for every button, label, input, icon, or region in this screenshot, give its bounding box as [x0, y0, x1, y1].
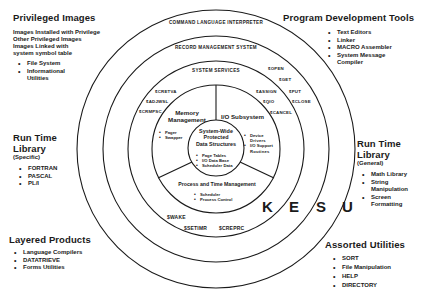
svc-creprc: $CREPRC	[219, 225, 244, 231]
pdt-bullet-compiler: Compiler	[337, 59, 414, 66]
svc-assign: $ASSIGN	[256, 89, 277, 94]
layered-products-block: Layered Products Language Compilers DATA…	[9, 234, 91, 272]
pdt-bullet-system-message: System Message	[327, 52, 414, 60]
lp-bullet-language-compilers: Language Compilers	[13, 249, 91, 257]
rtl-specific-subtitle: (Specific)	[13, 154, 57, 160]
privileged-images-title: Privileged Images	[13, 12, 100, 23]
au-bullet-sort: SORT	[332, 254, 405, 263]
privileged-line-1: Images Installed with Privilege	[13, 29, 100, 36]
privileged-bullet-file-system: File System	[17, 60, 100, 68]
svc-open: $OPEN	[268, 66, 284, 71]
mode-kernel: K	[262, 198, 273, 215]
rtl-general-subtitle: (General)	[357, 160, 408, 166]
mode-executive: E	[289, 198, 299, 215]
privileged-images-block: Privileged Images Images Installed with …	[13, 12, 100, 82]
svc-wake: $WAKE	[167, 214, 186, 220]
spoke-lower-left	[158, 162, 192, 178]
rtl-specific-title-1: Run Time	[13, 132, 57, 143]
privileged-line-4: system symbol table	[13, 50, 100, 57]
io-routines: Routines	[250, 149, 273, 154]
spoke-lower-right	[240, 162, 274, 178]
process-bullets: Scheduler Process Control	[194, 192, 232, 202]
core-data-structures: System-Wide Protected Data Structures	[188, 128, 244, 147]
lp-bullet-forms-utilities: Forms Utilities	[13, 264, 91, 272]
io-bullet-support: I/O Support	[244, 143, 273, 148]
svc-put: $PUT	[289, 89, 301, 94]
mode-supervisor: S	[316, 198, 326, 215]
mode-user: U	[342, 198, 353, 215]
svc-qio: $QIO	[263, 99, 274, 104]
program-dev-tools-title: Program Development Tools	[283, 12, 414, 23]
ring-label-cli: COMMAND LANGUAGE INTERPRETER	[166, 20, 266, 25]
layered-products-title: Layered Products	[9, 234, 91, 245]
memory-title-1: Memory	[163, 109, 211, 116]
rtl-specific-title-2: Library	[13, 143, 57, 154]
au-bullet-file-manipulation: File Manipulation	[332, 263, 405, 272]
memory-bullet-swapper: Swapper	[159, 135, 182, 140]
ring-label-rms: RECORD MANAGEMENT SYSTEM	[166, 45, 266, 50]
au-bullet-directory: DIRECTORY	[332, 281, 405, 290]
svc-crmpsc: $CRMPSC	[139, 109, 162, 114]
lp-bullet-datatrieve: DATATRIEVE	[13, 257, 91, 265]
pdt-bullet-linker: Linker	[327, 37, 414, 45]
svc-cretva: $CRETVA	[155, 89, 177, 94]
memory-bullets: Pager Swapper	[159, 130, 182, 140]
memory-management-section: Memory Management	[163, 109, 211, 123]
process-time-title: Process and Time Management	[171, 181, 263, 188]
svc-adjwsl: $ADJWSL	[146, 99, 168, 104]
svc-get: $GET	[279, 77, 291, 82]
assorted-utilities-block: Assorted Utilities SORT File Manipulatio…	[325, 239, 405, 290]
privileged-line-3: Images Linked with	[13, 43, 100, 50]
process-bullet-process-control: Process Control	[194, 197, 232, 202]
svc-close: $CLOSE	[292, 99, 311, 104]
au-bullet-help: HELP	[332, 272, 405, 281]
rtl-general-title-1: Run Time	[357, 138, 408, 149]
io-bullets: Device Drivers I/O Support Routines	[244, 133, 273, 154]
core-title-3: Data Structures	[188, 141, 244, 147]
rtl-general-bullet-string: String	[361, 179, 408, 187]
privileged-line-2: Other Privileged Images	[13, 36, 100, 43]
rtl-general-title-2: Library	[357, 149, 408, 160]
pdt-bullet-text-editors: Text Editors	[327, 29, 414, 37]
rtl-general-formatting: Formatting	[371, 201, 408, 209]
rtl-specific-bullet-pli: PL/I	[18, 180, 57, 188]
core-bullets: Page Tables I/O Data Base Scheduler Data	[196, 153, 233, 169]
rtl-specific-bullet-pascal: PASCAL	[18, 173, 57, 181]
program-dev-tools-block: Program Development Tools Text Editors L…	[283, 12, 414, 66]
rtl-specific-block: Run Time Library (Specific) FORTRAN PASC…	[13, 132, 57, 188]
rtl-general-bullet-math: Math Library	[361, 171, 408, 179]
privileged-bullet-informational: Informational	[17, 68, 100, 76]
svc-cancel: $CANCEL	[270, 110, 292, 115]
core-bullet-scheduler-data: Scheduler Data	[196, 163, 233, 168]
pdt-bullet-macro-assembler: MACRO Assembler	[327, 44, 414, 52]
io-bullet-device: Device	[244, 133, 273, 138]
ring-label-system-services: SYSTEM SERVICES	[176, 68, 256, 73]
rtl-general-bullet-screen: Screen	[361, 194, 408, 202]
rtl-general-manipulation: Manipulation	[371, 186, 408, 194]
privileged-bullet-utilities: Utilities	[27, 75, 100, 82]
io-subsystem-title: I/O Subsystem	[221, 113, 264, 120]
rtl-specific-bullet-fortran: FORTRAN	[18, 165, 57, 173]
assorted-utilities-title: Assorted Utilities	[325, 239, 405, 250]
memory-title-2: Management	[163, 116, 211, 123]
rtl-general-block: Run Time Library (General) Math Library …	[357, 138, 408, 209]
svc-setimr: $SETIMR	[184, 225, 207, 231]
